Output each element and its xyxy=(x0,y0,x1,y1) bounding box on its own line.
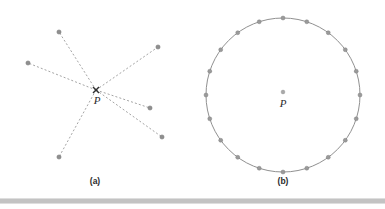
divider-bar xyxy=(0,199,385,203)
circle-point-marker xyxy=(204,93,208,97)
figure-container: P (a) P (b) xyxy=(0,0,385,209)
circle-point-marker xyxy=(281,170,285,174)
circle-point-marker xyxy=(236,155,240,159)
circle-point-marker xyxy=(257,166,261,170)
circle-point-marker xyxy=(208,69,212,73)
circle-point-marker xyxy=(358,93,362,97)
ray-left-endpoint xyxy=(26,61,30,65)
circle-point-marker xyxy=(326,155,330,159)
panel-b-point-label: P xyxy=(279,97,287,109)
panel-b-caption: (b) xyxy=(278,176,289,186)
circle-point-marker xyxy=(326,31,330,35)
ray-right-low-endpoint xyxy=(148,106,152,110)
circle-point-marker xyxy=(354,117,358,121)
ray-up-left-endpoint xyxy=(57,30,61,34)
circle-point-marker xyxy=(343,138,347,142)
panel-a-point-label: P xyxy=(93,94,101,106)
circle-point-marker xyxy=(354,69,358,73)
circle-point-marker xyxy=(208,117,212,121)
circle-point-marker xyxy=(219,48,223,52)
ray-down-left-endpoint xyxy=(57,155,61,159)
circle-point-marker xyxy=(236,31,240,35)
circle-point-marker xyxy=(343,48,347,52)
panel-a-caption: (a) xyxy=(90,176,101,186)
circle-point-marker xyxy=(305,166,309,170)
bottom-divider xyxy=(0,198,385,204)
circle-point-marker xyxy=(281,16,285,20)
circle-point-marker xyxy=(305,20,309,24)
circle-point-marker xyxy=(257,20,261,24)
circle-center-dot xyxy=(281,90,285,94)
ray-down-right-endpoint xyxy=(160,135,164,139)
ray-up-right-endpoint xyxy=(156,45,160,49)
figure-canvas: P (a) P (b) xyxy=(0,0,385,209)
circle-point-marker xyxy=(219,138,223,142)
